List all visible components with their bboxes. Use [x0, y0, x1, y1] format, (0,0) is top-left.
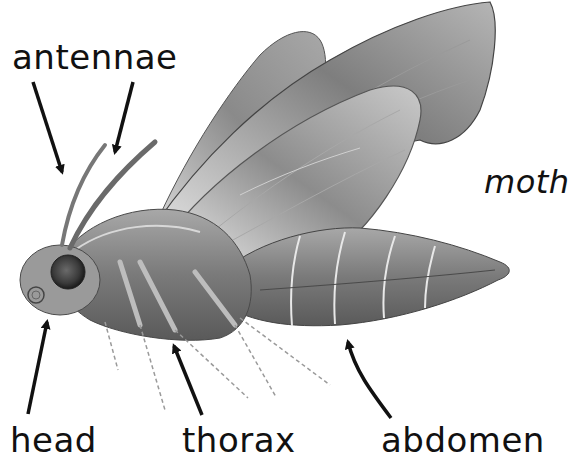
arrow-abdomen	[348, 342, 391, 418]
arrow-head	[28, 322, 47, 414]
arrow-antennae-right	[115, 82, 133, 152]
label-head: head	[10, 423, 97, 457]
arrow-antennae-left	[33, 82, 62, 172]
eye	[51, 255, 85, 289]
label-abdomen: abdomen	[381, 423, 545, 457]
head-body	[20, 245, 100, 315]
label-antennae: antennae	[12, 40, 177, 74]
arrow-thorax	[174, 346, 202, 415]
label-thorax: thorax	[182, 423, 296, 457]
diagram-title: moth	[484, 166, 570, 198]
